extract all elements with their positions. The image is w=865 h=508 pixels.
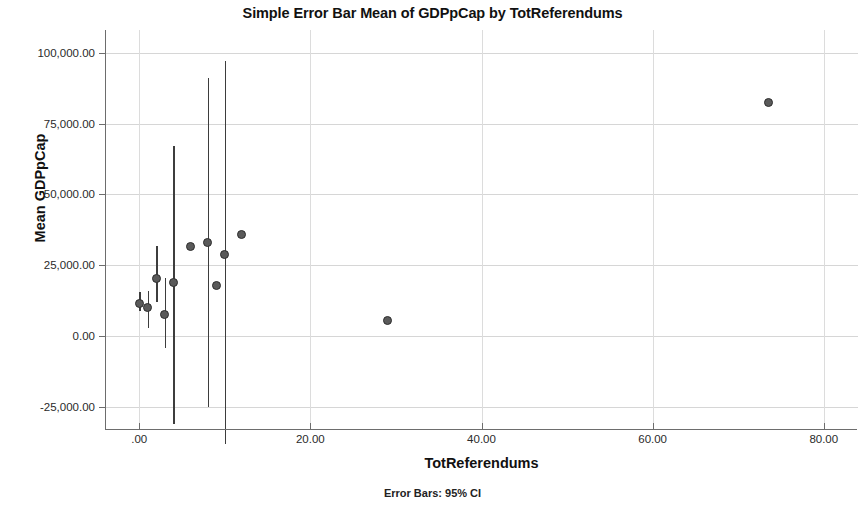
data-point — [152, 274, 161, 283]
gridline-vertical — [139, 30, 140, 427]
data-point — [203, 238, 212, 247]
plot-area — [105, 30, 858, 427]
gridline-vertical — [653, 30, 654, 427]
x-axis-tick — [139, 423, 140, 430]
x-axis-tick-label: .00 — [131, 433, 147, 445]
y-axis-line — [105, 30, 106, 430]
y-axis-tick-label: -25,000.00 — [40, 401, 95, 413]
x-axis-tick-label: 60.00 — [638, 433, 667, 445]
data-point — [143, 303, 152, 312]
y-axis-title: Mean GDPpCap — [32, 108, 48, 268]
x-axis-tick-label: 80.00 — [809, 433, 838, 445]
gridline-vertical — [482, 30, 483, 427]
x-axis-tick — [653, 423, 654, 430]
gridline-vertical — [310, 30, 311, 427]
x-axis-tick — [824, 423, 825, 430]
data-point — [237, 230, 246, 239]
y-axis-tick-label: 50,000.00 — [44, 188, 95, 200]
y-axis-tick-label: 100,000.00 — [37, 47, 95, 59]
data-point — [186, 242, 195, 251]
data-point — [169, 278, 178, 287]
y-axis-tick — [99, 124, 106, 125]
x-axis-tick — [310, 423, 311, 430]
y-axis-tick — [99, 265, 106, 266]
y-axis-tick-label: 0.00 — [73, 330, 95, 342]
data-point — [383, 316, 392, 325]
y-axis-tick-label: 75,000.00 — [44, 118, 95, 130]
data-point — [160, 310, 169, 319]
chart-title: Simple Error Bar Mean of GDPpCap by TotR… — [0, 5, 865, 21]
y-axis-tick — [99, 336, 106, 337]
y-axis-tick — [99, 407, 106, 408]
gridline-vertical — [824, 30, 825, 427]
y-axis-tick-label: 25,000.00 — [44, 259, 95, 271]
data-point — [764, 98, 773, 107]
y-axis-tick — [99, 53, 106, 54]
x-axis-tick — [482, 423, 483, 430]
data-point — [220, 250, 229, 259]
chart-footnote: Error Bars: 95% CI — [0, 487, 865, 499]
y-axis-tick — [99, 194, 106, 195]
data-point — [212, 281, 221, 290]
x-axis-title: TotReferendums — [105, 455, 858, 471]
chart-container: Simple Error Bar Mean of GDPpCap by TotR… — [0, 0, 865, 508]
x-axis-tick-label: 20.00 — [296, 433, 325, 445]
x-axis-tick-label: 40.00 — [467, 433, 496, 445]
